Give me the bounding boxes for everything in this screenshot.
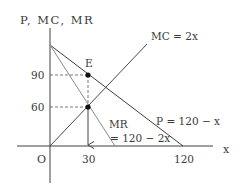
demand-label: P = 120 − x <box>156 115 220 127</box>
point-e <box>85 72 90 77</box>
origin-label: O <box>37 153 46 166</box>
x-tick-120: 120 <box>174 153 194 165</box>
mc-curve <box>50 44 147 146</box>
point-e-label: E <box>85 57 93 69</box>
mr-label-line1: MR <box>109 118 129 130</box>
y-tick-60: 60 <box>31 101 44 113</box>
mr-curve <box>50 45 115 146</box>
demand-curve <box>50 45 183 146</box>
x-axis-label: x <box>223 143 230 156</box>
y-tick-90: 90 <box>31 69 44 81</box>
x-tick-30: 30 <box>82 153 95 165</box>
monopoly-diagram: P, MC, MR x O 90 60 30 120 E MC = 2x P =… <box>0 0 243 188</box>
y-axis-label: P, MC, MR <box>20 13 94 27</box>
mc-label: MC = 2x <box>151 30 198 42</box>
point-mc-mr <box>85 104 90 109</box>
mr-label-line2: = 120 − 2x <box>110 132 170 144</box>
